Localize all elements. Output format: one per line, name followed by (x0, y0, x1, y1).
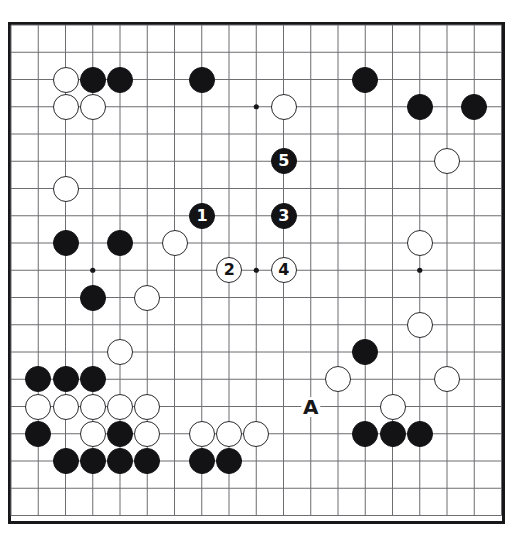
stone-move-number: 5 (278, 153, 289, 169)
stone-white[interactable] (53, 67, 79, 93)
stone-white[interactable] (80, 94, 106, 120)
stone-white[interactable] (53, 176, 79, 202)
stone-black[interactable] (80, 448, 106, 474)
stone-white[interactable] (380, 394, 406, 420)
stone-move-number: 3 (278, 208, 289, 224)
stone-white[interactable] (80, 394, 106, 420)
stone-black[interactable] (380, 421, 406, 447)
stone-black[interactable] (107, 230, 133, 256)
stone-white[interactable] (407, 312, 433, 338)
stone-move-number: 4 (278, 262, 289, 278)
stone-white[interactable] (80, 421, 106, 447)
stone-white[interactable] (134, 285, 160, 311)
stone-black[interactable] (189, 448, 215, 474)
stone-black[interactable] (53, 366, 79, 392)
stone-black[interactable] (53, 230, 79, 256)
numbered-stone-black[interactable]: 1 (189, 203, 215, 229)
stone-black[interactable] (134, 448, 160, 474)
stone-black[interactable] (107, 448, 133, 474)
stone-white[interactable] (243, 421, 269, 447)
stone-black[interactable] (107, 421, 133, 447)
stone-black[interactable] (80, 366, 106, 392)
stone-black[interactable] (352, 421, 378, 447)
stone-white[interactable] (434, 366, 460, 392)
numbered-stone-white[interactable]: 4 (271, 257, 297, 283)
stone-white[interactable] (216, 421, 242, 447)
stone-white[interactable] (271, 94, 297, 120)
stone-black[interactable] (25, 421, 51, 447)
stone-white[interactable] (434, 148, 460, 174)
point-label-a[interactable]: A (301, 397, 320, 417)
go-board[interactable]: 51324 A (0, 0, 514, 538)
stone-white[interactable] (107, 394, 133, 420)
stone-black[interactable] (216, 448, 242, 474)
stone-black[interactable] (352, 339, 378, 365)
stone-black[interactable] (80, 285, 106, 311)
numbered-stone-white[interactable]: 2 (216, 257, 242, 283)
stone-black[interactable] (25, 366, 51, 392)
numbered-stone-black[interactable]: 3 (271, 203, 297, 229)
stone-white[interactable] (134, 394, 160, 420)
stone-black[interactable] (407, 94, 433, 120)
diagram-page: 51324 A (0, 0, 514, 538)
stone-white[interactable] (325, 366, 351, 392)
stone-black[interactable] (407, 421, 433, 447)
stone-black[interactable] (189, 67, 215, 93)
stone-black[interactable] (461, 94, 487, 120)
stone-white[interactable] (162, 230, 188, 256)
stone-black[interactable] (107, 67, 133, 93)
numbered-stone-black[interactable]: 5 (271, 148, 297, 174)
stone-black[interactable] (352, 67, 378, 93)
stone-white[interactable] (407, 230, 433, 256)
stone-black[interactable] (80, 67, 106, 93)
stone-move-number: 2 (224, 262, 235, 278)
stone-white[interactable] (107, 339, 133, 365)
stone-white[interactable] (25, 394, 51, 420)
stone-white[interactable] (53, 94, 79, 120)
stone-black[interactable] (53, 448, 79, 474)
stone-move-number: 1 (196, 208, 207, 224)
stone-white[interactable] (189, 421, 215, 447)
stone-white[interactable] (53, 394, 79, 420)
stone-white[interactable] (134, 421, 160, 447)
